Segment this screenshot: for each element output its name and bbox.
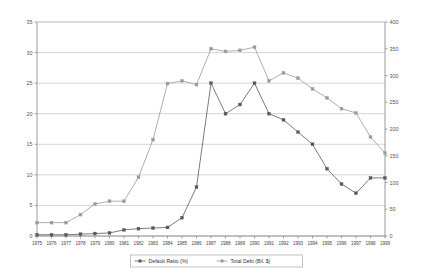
data-point-marker: [239, 49, 242, 52]
axes-group: [37, 22, 385, 236]
data-point-marker: [137, 227, 140, 230]
data-point-marker: [137, 176, 140, 179]
data-point-marker: [340, 183, 343, 186]
right-tick-label: 150: [390, 153, 399, 159]
data-point-marker: [36, 233, 39, 236]
right-tick-label: 200: [390, 126, 399, 132]
x-tick-label: 1991: [264, 241, 275, 246]
data-point-marker: [282, 71, 285, 74]
data-point-marker: [253, 82, 256, 85]
x-tick-label: 1975: [32, 241, 43, 246]
data-point-marker: [94, 232, 97, 235]
data-point-marker: [311, 143, 314, 146]
data-point-marker: [181, 79, 184, 82]
data-point-marker: [355, 192, 358, 195]
x-tick-label: 1996: [336, 241, 347, 246]
right-tick-label: 350: [390, 46, 399, 52]
x-tick-label: 1988: [220, 241, 231, 246]
data-point-marker: [297, 77, 300, 80]
legend-label: Default Ratio (%): [149, 258, 189, 264]
x-tick-label: 1990: [249, 241, 260, 246]
x-tick-label: 1982: [133, 241, 144, 246]
data-point-marker: [94, 202, 97, 205]
data-point-marker: [384, 152, 387, 155]
data-point-marker: [152, 138, 155, 141]
right-axis-ticks: 050100150200250300350400: [385, 19, 399, 239]
x-tick-label: 1979: [90, 241, 101, 246]
x-tick-label: 1985: [177, 241, 188, 246]
data-point-marker: [195, 83, 198, 86]
x-tick-label: 1986: [191, 241, 202, 246]
x-tick-label: 1992: [278, 241, 289, 246]
chart-legend: Default Ratio (%)Total Debt (Bil. $): [131, 255, 303, 267]
data-point-marker: [79, 233, 82, 236]
data-point-marker: [50, 221, 53, 224]
legend-marker-swatch: [221, 260, 224, 263]
x-tick-label: 1980: [104, 241, 115, 246]
data-point-marker: [369, 136, 372, 139]
x-tick-label: 1977: [61, 241, 72, 246]
x-tick-label: 1987: [206, 241, 217, 246]
data-point-marker: [65, 233, 68, 236]
gridlines-group: [37, 22, 385, 236]
data-point-marker: [181, 216, 184, 219]
left-tick-label: 0: [30, 233, 33, 239]
data-point-marker: [326, 96, 329, 99]
data-point-marker: [50, 233, 53, 236]
series-line-2: [37, 47, 385, 222]
data-point-marker: [195, 186, 198, 189]
x-tick-label: 1989: [235, 241, 246, 246]
data-series-group: [36, 46, 387, 237]
data-point-marker: [210, 47, 213, 50]
data-point-marker: [224, 112, 227, 115]
right-tick-label: 100: [390, 180, 399, 186]
left-axis-ticks: 05101520253035: [27, 19, 38, 239]
data-point-marker: [166, 82, 169, 85]
x-axis-ticks: 1975197619771978197919801981198219831984…: [32, 236, 391, 246]
data-point-marker: [210, 82, 213, 85]
chart-container: 05101520253035 050100150200250300350400 …: [0, 0, 433, 278]
data-point-marker: [268, 112, 271, 115]
data-point-marker: [369, 176, 372, 179]
data-point-marker: [123, 228, 126, 231]
data-point-marker: [340, 107, 343, 110]
right-tick-label: 50: [390, 206, 396, 212]
x-tick-label: 1976: [46, 241, 57, 246]
line-chart: 05101520253035 050100150200250300350400 …: [0, 0, 433, 278]
data-point-marker: [384, 176, 387, 179]
data-point-marker: [268, 79, 271, 82]
data-point-marker: [123, 200, 126, 203]
left-tick-label: 35: [27, 19, 33, 25]
data-point-marker: [253, 46, 256, 49]
x-tick-label: 1997: [351, 241, 362, 246]
x-tick-label: 1981: [119, 241, 130, 246]
data-point-marker: [355, 111, 358, 114]
left-tick-label: 30: [27, 50, 33, 56]
x-tick-label: 1994: [307, 241, 318, 246]
data-point-marker: [239, 103, 242, 106]
series-line-1: [37, 83, 385, 235]
data-point-marker: [166, 226, 169, 229]
left-tick-label: 10: [27, 172, 33, 178]
right-tick-label: 250: [390, 99, 399, 105]
data-point-marker: [282, 118, 285, 121]
left-tick-label: 20: [27, 111, 33, 117]
x-tick-label: 1999: [380, 241, 391, 246]
data-point-marker: [311, 87, 314, 90]
legend-label: Total Debt (Bil. $): [231, 258, 271, 264]
left-tick-label: 5: [30, 202, 33, 208]
data-point-marker: [152, 227, 155, 230]
data-point-marker: [297, 131, 300, 134]
right-tick-label: 300: [390, 73, 399, 79]
data-point-marker: [108, 200, 111, 203]
right-tick-label: 0: [390, 233, 393, 239]
data-point-marker: [36, 221, 39, 224]
x-tick-label: 1995: [322, 241, 333, 246]
x-tick-label: 1983: [148, 241, 159, 246]
x-tick-label: 1998: [365, 241, 376, 246]
data-point-marker: [65, 221, 68, 224]
x-tick-label: 1984: [162, 241, 173, 246]
x-tick-label: 1993: [293, 241, 304, 246]
left-tick-label: 15: [27, 141, 33, 147]
data-point-marker: [326, 167, 329, 170]
